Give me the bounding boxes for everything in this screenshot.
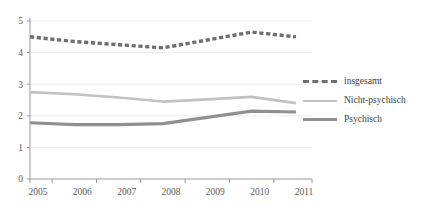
series-line-psychisch: [30, 111, 296, 125]
line-chart: 012345 2005200620072008200920102011 insg…: [0, 0, 429, 213]
series-line-nicht-psychisch: [30, 92, 296, 103]
legend-label: insgesamt: [344, 77, 382, 87]
x-axis-ticks: [30, 179, 312, 183]
legend-swatch-dashed-icon: [303, 80, 337, 83]
x-axis-tick-label: 2006: [73, 187, 92, 197]
series-line-insgesamt: [30, 32, 296, 48]
x-axis-tick-label: 2008: [162, 187, 181, 197]
y-axis-tick-label: 5: [18, 16, 23, 26]
x-axis-tick-label: 2007: [117, 187, 136, 197]
legend-label: Nicht-psychisch: [344, 96, 406, 106]
legend-swatch-medium-line-icon: [303, 118, 337, 121]
y-axis-tick-label: 0: [18, 174, 23, 184]
y-axis-tick-label: 4: [18, 48, 23, 58]
y-axis-tick-label: 3: [18, 80, 23, 90]
y-axis-tick-label: 2: [18, 111, 23, 121]
y-axis-tick-labels: 012345: [18, 16, 30, 184]
x-axis-tick-labels: 2005200620072008200920102011: [29, 187, 314, 197]
x-axis-tick-label: 2010: [250, 187, 269, 197]
legend-label: Psychisch: [344, 115, 382, 125]
series-lines: [30, 32, 296, 125]
y-axis-tick-label: 1: [18, 143, 23, 153]
chart-legend: insgesamt Nicht-psychisch Psychisch: [303, 72, 429, 129]
legend-item-nicht-psychisch: Nicht-psychisch: [303, 91, 429, 110]
x-axis-tick-label: 2009: [206, 187, 225, 197]
legend-item-insgesamt: insgesamt: [303, 72, 429, 91]
legend-swatch-light-line-icon: [303, 100, 337, 102]
legend-item-psychisch: Psychisch: [303, 110, 429, 129]
x-axis-tick-label: 2005: [29, 187, 48, 197]
x-axis-tick-label: 2011: [295, 187, 314, 197]
